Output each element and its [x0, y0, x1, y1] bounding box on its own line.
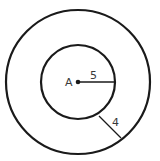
center-label: A: [65, 76, 73, 89]
inner-radius-label: 5: [90, 69, 97, 82]
ring-width-label: 4: [112, 116, 119, 129]
concentric-circles-diagram: A 5 4: [0, 0, 160, 161]
